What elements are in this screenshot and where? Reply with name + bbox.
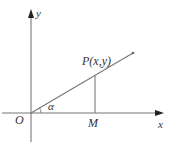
angle-label: α (48, 100, 54, 112)
x-axis-label: x (157, 118, 163, 130)
point-m-label: M (87, 116, 99, 130)
origin-label: O (15, 113, 24, 127)
x-axis (2, 110, 164, 116)
angle-arc (40, 108, 41, 113)
ray-endpoint (132, 52, 135, 55)
y-axis-arrow-icon (28, 9, 34, 18)
coordinate-diagram: y x O P(x,y) α M (0, 0, 178, 154)
y-axis-label: y (35, 7, 41, 19)
x-axis-arrow-icon (155, 110, 164, 116)
y-axis (28, 9, 34, 142)
point-p-label: P(x,y) (81, 54, 111, 68)
